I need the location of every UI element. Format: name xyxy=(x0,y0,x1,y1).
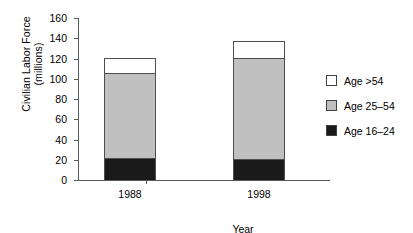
y-axis-tick: 120 xyxy=(74,59,78,60)
legend-swatch xyxy=(326,100,337,111)
y-axis-tick-label: 0 xyxy=(27,174,67,186)
y-axis-tick: 80 xyxy=(74,99,78,100)
x-axis-tick-label-1988: 1988 xyxy=(118,188,141,200)
bar-1998 xyxy=(233,41,285,180)
y-axis-tick-label: 100 xyxy=(27,73,67,85)
legend-item: Age 16–24 xyxy=(326,118,395,143)
y-axis-tick: 160 xyxy=(74,18,78,19)
y-axis-tick-label: 140 xyxy=(27,32,67,44)
bar-segment xyxy=(233,58,285,160)
y-axis-tick-label: 120 xyxy=(27,53,67,65)
x-axis-tick xyxy=(146,180,147,184)
legend-swatch xyxy=(326,125,337,136)
y-axis-tick: 60 xyxy=(74,119,78,120)
y-axis-line xyxy=(78,18,79,181)
y-axis-tick: 140 xyxy=(74,38,78,39)
bar-segment xyxy=(104,158,156,180)
plot-area: 020406080100120140160 19881998 Year xyxy=(78,18,330,180)
bar-segment xyxy=(104,58,156,73)
legend-swatch xyxy=(326,75,337,86)
y-axis-tick: 20 xyxy=(74,160,78,161)
bar-1988 xyxy=(104,58,156,180)
stacked-bar-chart: Civilian Labor Force (millions) 02040608… xyxy=(0,0,413,233)
bar-segment xyxy=(233,159,285,180)
x-axis-tick-label-1998: 1998 xyxy=(247,188,270,200)
legend-label: Age >54 xyxy=(344,75,383,87)
y-axis-tick: 0 xyxy=(74,180,78,181)
chart-legend: Age >54Age 25–54Age 16–24 xyxy=(326,68,395,143)
y-axis-tick: 100 xyxy=(74,79,78,80)
x-axis-line xyxy=(78,180,330,181)
y-axis-tick-label: 80 xyxy=(27,93,67,105)
y-axis-tick-label: 160 xyxy=(27,12,67,24)
legend-label: Age 25–54 xyxy=(344,100,395,112)
legend-label: Age 16–24 xyxy=(344,125,395,137)
legend-item: Age >54 xyxy=(326,68,395,93)
y-axis-tick-label: 20 xyxy=(27,154,67,166)
legend-item: Age 25–54 xyxy=(326,93,395,118)
bar-segment xyxy=(104,73,156,159)
bar-segment xyxy=(233,41,285,58)
y-axis-tick: 40 xyxy=(74,140,78,141)
y-axis-tick-label: 40 xyxy=(27,134,67,146)
x-axis-title: Year xyxy=(78,223,408,233)
y-axis-tick-label: 60 xyxy=(27,113,67,125)
